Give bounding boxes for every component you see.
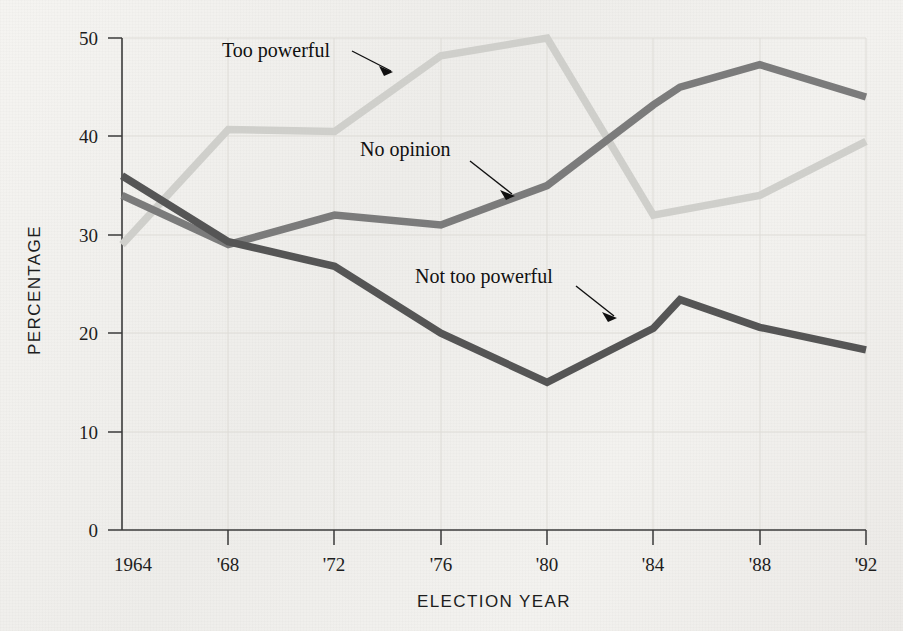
xtick-label-1988: '88 [749, 554, 771, 575]
annotation-no-opinion: No opinion [360, 138, 515, 200]
annotation-too-powerful: Too powerful [222, 39, 393, 76]
y-axis-ticks [108, 38, 122, 530]
ytick-label-30: 30 [79, 225, 98, 246]
xtick-label-1992: '92 [855, 554, 877, 575]
x-axis-tick-labels: 1964 '68 '72 '76 '80 '84 '88 '92 [114, 554, 877, 575]
ytick-label-20: 20 [79, 323, 98, 344]
grid-horizontal [122, 38, 866, 432]
annotation-arrow-line-not-too-powerful [576, 286, 614, 316]
annotation-label-not-too-powerful: Not too powerful [415, 265, 553, 288]
ytick-label-0: 0 [89, 520, 99, 541]
xtick-label-1976: '76 [430, 554, 452, 575]
ytick-label-40: 40 [79, 126, 98, 147]
xtick-label-1968: '68 [217, 554, 239, 575]
xtick-label-1980: '80 [536, 554, 558, 575]
annotation-arrow-line-too-powerful [352, 51, 391, 71]
xtick-label-1972: '72 [323, 554, 345, 575]
ytick-label-10: 10 [79, 422, 98, 443]
line-chart: 50 40 30 20 10 0 1964 '68 '72 '76 '80 '8… [0, 0, 903, 631]
xtick-label-1964: 1964 [114, 554, 153, 575]
y-axis-title: PERCENTAGE [25, 225, 44, 355]
ytick-label-50: 50 [79, 28, 98, 49]
annotation-not-too-powerful: Not too powerful [415, 265, 617, 322]
y-axis-tick-labels: 50 40 30 20 10 0 [79, 28, 98, 541]
xtick-label-1984: '84 [642, 554, 665, 575]
chart-canvas: 50 40 30 20 10 0 1964 '68 '72 '76 '80 '8… [0, 0, 903, 631]
x-axis-ticks [228, 530, 866, 545]
annotation-label-too-powerful: Too powerful [222, 39, 330, 62]
x-axis-title: ELECTION YEAR [417, 592, 571, 611]
annotation-arrow-line-no-opinion [470, 161, 512, 194]
annotation-arrowhead-not-too-powerful [602, 312, 617, 322]
series-line-no-opinion [122, 65, 866, 245]
annotation-label-no-opinion: No opinion [360, 138, 451, 161]
